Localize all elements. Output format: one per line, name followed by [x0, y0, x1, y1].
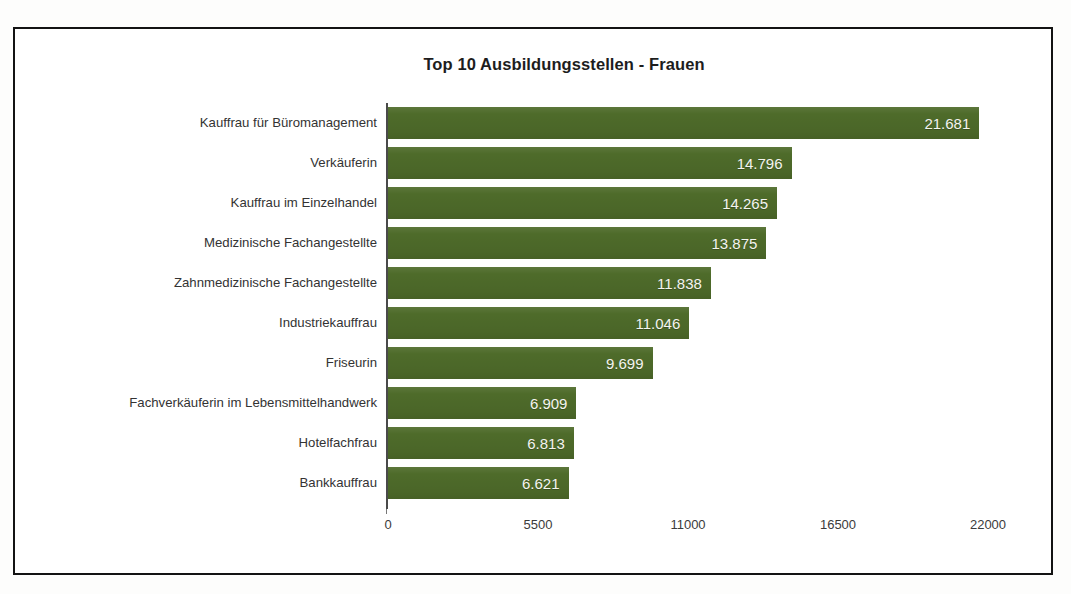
bar-row: Kauffrau für Büromanagement21.681 [15, 107, 1051, 139]
bar-row: Friseurin9.699 [15, 347, 1051, 379]
category-label: Friseurin [15, 347, 377, 379]
category-label: Medizinische Fachangestellte [15, 227, 377, 259]
bar: 9.699 [388, 347, 653, 379]
bar: 14.796 [388, 147, 792, 179]
bar: 14.265 [388, 187, 777, 219]
bar-row: Fachverkäuferin im Lebensmittelhandwerk6… [15, 387, 1051, 419]
bar-row: Verkäuferin14.796 [15, 147, 1051, 179]
bar-row: Kauffrau im Einzelhandel14.265 [15, 187, 1051, 219]
bar-row: Industriekauffrau11.046 [15, 307, 1051, 339]
figure-frame: Top 10 Ausbildungsstellen - Frauen Kauff… [13, 27, 1053, 575]
bar-value-label: 9.699 [606, 347, 644, 379]
bar: 6.909 [388, 387, 576, 419]
x-tick-label: 22000 [970, 517, 1006, 532]
bar-value-label: 14.796 [737, 147, 783, 179]
bar-value-label: 6.813 [527, 427, 565, 459]
bar-row: Hotelfachfrau6.813 [15, 427, 1051, 459]
x-tick-label: 11000 [670, 517, 705, 532]
category-label: Kauffrau im Einzelhandel [15, 187, 377, 219]
bar: 6.813 [388, 427, 574, 459]
bar-value-label: 21.681 [924, 107, 970, 139]
bar-value-label: 11.838 [657, 267, 702, 299]
bar-value-label: 13.875 [712, 227, 758, 259]
bar: 13.875 [388, 227, 766, 259]
bar-row: Bankkauffrau6.621 [15, 467, 1051, 499]
category-label: Kauffrau für Büromanagement [15, 107, 377, 139]
category-label: Bankkauffrau [15, 467, 377, 499]
x-tick-label: 16500 [820, 517, 856, 532]
bar-value-label: 11.046 [635, 307, 680, 339]
category-label: Fachverkäuferin im Lebensmittelhandwerk [15, 387, 377, 419]
bar: 11.046 [388, 307, 689, 339]
bar-row: Zahnmedizinische Fachangestellte11.838 [15, 267, 1051, 299]
bar-value-label: 6.909 [530, 387, 568, 419]
x-tick-mark [386, 509, 387, 514]
bar: 11.838 [388, 267, 711, 299]
bar-chart: Top 10 Ausbildungsstellen - Frauen Kauff… [15, 29, 1051, 573]
category-label: Verkäuferin [15, 147, 377, 179]
bar: 6.621 [388, 467, 569, 499]
x-tick-label: 0 [384, 517, 391, 532]
category-label: Hotelfachfrau [15, 427, 377, 459]
category-label: Zahnmedizinische Fachangestellte [15, 267, 377, 299]
scanned-page-background: Top 10 Ausbildungsstellen - Frauen Kauff… [0, 0, 1071, 594]
x-axis: 05500110001650022000 [15, 509, 1051, 549]
bar-value-label: 6.621 [522, 467, 560, 499]
x-tick-label: 5500 [524, 517, 553, 532]
plot-area: Kauffrau für Büromanagement21.681Verkäuf… [15, 29, 1051, 573]
category-label: Industriekauffrau [15, 307, 377, 339]
bar-row: Medizinische Fachangestellte13.875 [15, 227, 1051, 259]
bar: 21.681 [388, 107, 979, 139]
bar-value-label: 14.265 [722, 187, 768, 219]
